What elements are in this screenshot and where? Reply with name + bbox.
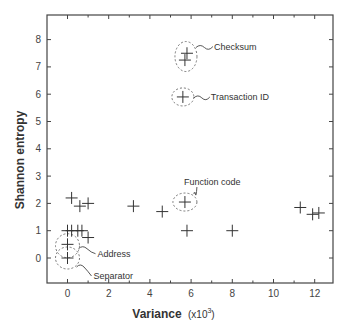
y-axis-label: Shannon entropy	[13, 110, 27, 209]
plus-marker-icon	[179, 196, 191, 208]
annotation-function-code: Function code	[184, 177, 241, 187]
x-tick-label: 4	[147, 288, 153, 299]
leader-line	[194, 96, 210, 100]
y-tick-label: 6	[35, 89, 41, 100]
x-tick-label: 2	[106, 288, 112, 299]
leader-line	[77, 265, 92, 276]
leader-line	[196, 46, 213, 50]
highlight-ellipse	[175, 42, 197, 72]
leader-line	[194, 187, 197, 195]
plus-marker-icon	[226, 225, 238, 237]
y-tick-label: 4	[35, 143, 41, 154]
y-tick-label: 7	[35, 61, 41, 72]
plus-marker-icon	[127, 200, 139, 212]
axis-ticks: 024681012012345678	[35, 15, 333, 299]
annotation-checksum: Checksum	[214, 42, 257, 52]
scatter-chart: 024681012012345678 ChecksumTransaction I…	[0, 0, 355, 336]
y-tick-label: 0	[35, 253, 41, 264]
annotations: ChecksumTransaction IDFunction codeAddre…	[56, 42, 270, 281]
y-tick-label: 5	[35, 116, 41, 127]
annotation-address: Address	[98, 249, 132, 259]
plus-marker-icon	[179, 54, 191, 66]
plot-frame	[47, 15, 333, 283]
plus-marker-icon	[156, 206, 168, 218]
plus-marker-icon	[66, 192, 78, 204]
plus-marker-icon	[177, 91, 189, 103]
x-tick-label: 12	[309, 288, 321, 299]
y-tick-label: 8	[35, 34, 41, 45]
plus-marker-icon	[181, 47, 193, 59]
plus-marker-icon	[294, 201, 306, 213]
y-tick-label: 1	[35, 225, 41, 236]
plus-marker-icon	[62, 252, 74, 264]
data-points	[62, 47, 325, 264]
x-axis-unit: (x103)	[188, 307, 215, 320]
x-axis-label: Variance	[132, 307, 182, 321]
plot-border	[47, 15, 333, 283]
plus-marker-icon	[307, 208, 319, 220]
plus-marker-icon	[62, 238, 74, 250]
x-tick-label: 0	[65, 288, 71, 299]
annotation-transaction-id: Transaction ID	[211, 92, 270, 102]
y-tick-label: 2	[35, 198, 41, 209]
annotation-separator: Separator	[94, 271, 134, 281]
x-tick-label: 10	[268, 288, 280, 299]
leader-line	[79, 247, 96, 254]
plus-marker-icon	[313, 207, 325, 219]
plus-marker-icon	[82, 197, 94, 209]
plus-marker-icon	[74, 200, 86, 212]
plus-marker-icon	[181, 225, 193, 237]
x-tick-label: 6	[188, 288, 194, 299]
y-tick-label: 3	[35, 171, 41, 182]
plus-marker-icon	[82, 232, 94, 244]
x-tick-label: 8	[230, 288, 236, 299]
